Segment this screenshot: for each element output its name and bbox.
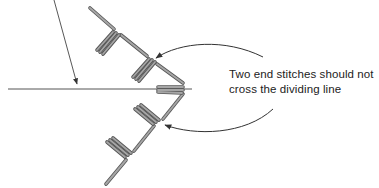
stitch-cluster-upper-1 bbox=[97, 32, 119, 54]
stitch-cluster-lower-1 bbox=[135, 105, 159, 124]
annotation-line-1: Two end stitches should not bbox=[229, 67, 374, 82]
annotation-line-2: cross the dividing line bbox=[229, 82, 374, 97]
stitch-cluster-upper-2 bbox=[133, 59, 155, 81]
lower-callout-arrow-icon bbox=[165, 109, 273, 132]
stitch-cluster-lower-2 bbox=[107, 138, 131, 157]
annotation-label: Two end stitches should not cross the di… bbox=[229, 67, 374, 97]
upper-callout-arrow-icon bbox=[156, 44, 263, 58]
stitch-single bbox=[90, 8, 183, 184]
stitches bbox=[90, 8, 183, 184]
pointer-arrow-icon bbox=[54, 0, 77, 84]
end-stitches bbox=[158, 87, 183, 93]
